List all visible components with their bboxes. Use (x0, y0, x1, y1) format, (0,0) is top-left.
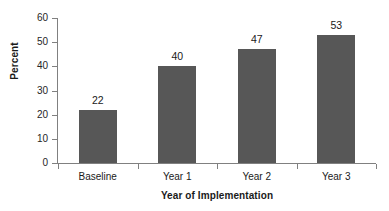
y-tick-label: 50 (14, 36, 48, 47)
x-axis-title: Year of Implementation (58, 190, 376, 201)
x-category-label: Year 3 (296, 171, 376, 182)
x-category-label: Year 2 (217, 171, 297, 182)
y-tick-mark (52, 18, 57, 19)
bar (238, 49, 276, 163)
x-tick-mark (217, 164, 218, 169)
bar-chart: Percent 0102030405060 22Baseline40Year 1… (0, 0, 389, 211)
bar (317, 35, 355, 163)
x-category-label: Year 1 (137, 171, 217, 182)
y-tick-mark (52, 42, 57, 43)
x-tick-mark (138, 164, 139, 169)
bar-value-label: 47 (237, 33, 277, 45)
y-tick-label: 60 (14, 12, 48, 23)
y-axis-line (57, 18, 58, 164)
y-tick-label: 30 (14, 85, 48, 96)
y-tick-mark (52, 139, 57, 140)
bar (79, 110, 117, 163)
bar-value-label: 22 (78, 94, 118, 106)
bar-value-label: 53 (316, 19, 356, 31)
y-tick-label: 40 (14, 60, 48, 71)
y-tick-label: 0 (14, 157, 48, 168)
y-tick-mark (52, 66, 57, 67)
bar (158, 66, 196, 163)
y-tick-label: 10 (14, 133, 48, 144)
y-tick-mark (52, 163, 57, 164)
x-tick-mark (297, 164, 298, 169)
y-tick-label: 20 (14, 109, 48, 120)
x-category-label: Baseline (58, 171, 138, 182)
y-tick-mark (52, 115, 57, 116)
y-tick-mark (52, 91, 57, 92)
x-tick-mark (58, 164, 59, 169)
bar-value-label: 40 (157, 50, 197, 62)
x-tick-mark (376, 164, 377, 169)
